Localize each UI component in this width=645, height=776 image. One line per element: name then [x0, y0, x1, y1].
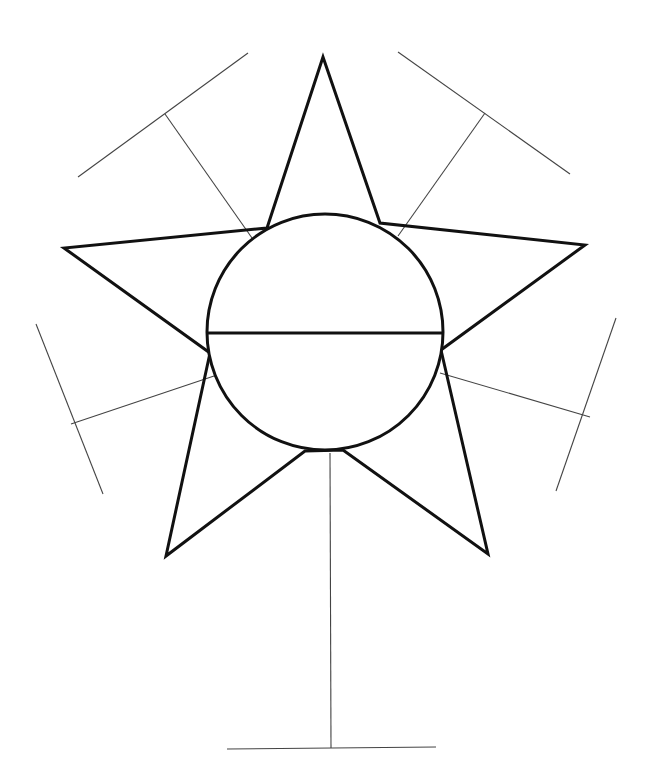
- writing-line-lower-right-stem: [440, 373, 590, 417]
- writing-line-upper-left-bar: [78, 53, 248, 177]
- star-diagram: [0, 0, 645, 776]
- writing-line-upper-left-stem: [165, 114, 252, 238]
- writing-line-upper-right-stem: [398, 113, 485, 236]
- writing-line-lower-left-bar: [36, 324, 103, 494]
- writing-line-lower-right-bar: [556, 318, 616, 491]
- writing-line-upper-right-bar: [398, 52, 570, 174]
- writing-line-bottom-stem: [330, 453, 331, 748]
- writing-line-lower-left-stem: [71, 376, 214, 424]
